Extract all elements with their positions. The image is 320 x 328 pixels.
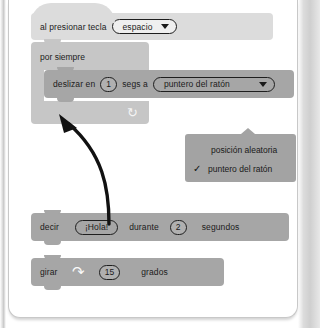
dropdown-glide-target-value: puntero del ratón — [164, 79, 230, 89]
script-panel: al presionar tecla espacio por siempre ↻… — [8, 0, 298, 318]
block-label-turn: girar — [40, 267, 58, 277]
block-bottom-notch — [44, 286, 61, 290]
curved-arrow-icon — [51, 108, 143, 226]
say-seconds-input[interactable]: 2 — [170, 220, 187, 235]
page-edge-left — [0, 0, 6, 328]
block-glide-to[interactable]: deslizar en 1 segs a puntero del ratón — [44, 70, 294, 98]
screenshot-root: al presionar tecla espacio por siempre ↻… — [0, 0, 320, 328]
loop-arrow-icon: ↻ — [125, 106, 139, 120]
page-edge-right — [298, 0, 320, 328]
block-label-for: durante — [129, 222, 159, 232]
turn-degrees-value: 15 — [105, 267, 115, 277]
turn-degrees-input[interactable]: 15 — [99, 265, 121, 280]
block-top-notch — [44, 39, 61, 43]
block-label-say: decir — [40, 222, 59, 232]
menu-item-label: puntero del ratón — [208, 164, 272, 174]
dropdown-glide-target[interactable]: puntero del ratón — [153, 77, 275, 92]
dropdown-key-selector[interactable]: espacio — [112, 19, 177, 34]
menu-item-random-position[interactable]: posición aleatoria — [211, 143, 277, 157]
block-label-glide: deslizar en — [53, 79, 95, 89]
dropdown-menu-pointer — [241, 128, 255, 134]
say-message-value: ¡Hola! — [85, 222, 108, 232]
block-turn-degrees[interactable]: girar ↷ 15 grados — [31, 258, 224, 286]
block-top-notch — [44, 255, 61, 259]
chevron-down-icon — [161, 24, 169, 29]
block-label-degrees: grados — [141, 267, 168, 277]
glide-seconds-value: 1 — [106, 79, 111, 89]
block-say-for-seconds[interactable]: decir ¡Hola! durante 2 segundos — [31, 213, 289, 241]
block-bottom-notch — [44, 241, 61, 245]
block-label-forever: por siempre — [40, 52, 85, 62]
block-label-seconds: segundos — [202, 222, 240, 232]
glide-seconds-input[interactable]: 1 — [100, 77, 117, 92]
block-label-glide-secs-to: segs a — [122, 79, 148, 89]
say-message-input[interactable]: ¡Hola! — [75, 220, 118, 235]
block-top-notch — [57, 67, 74, 71]
say-seconds-value: 2 — [176, 222, 181, 232]
dropdown-menu-glide-target[interactable]: posición aleatoria ✓ puntero del ratón — [185, 134, 296, 182]
block-when-key-pressed[interactable]: al presionar tecla espacio — [31, 13, 273, 40]
turn-clockwise-icon: ↷ — [63, 264, 94, 281]
block-label-when-key-pressed: al presionar tecla — [40, 22, 107, 32]
menu-item-label: posición aleatoria — [211, 145, 277, 155]
block-bottom-notch — [57, 98, 74, 102]
check-icon: ✓ — [193, 164, 203, 174]
menu-item-mouse-pointer[interactable]: ✓ puntero del ratón — [193, 162, 272, 176]
dropdown-key-value: espacio — [123, 22, 153, 32]
chevron-down-icon — [259, 82, 267, 87]
hat-block-dome — [31, 3, 115, 23]
block-top-notch — [44, 210, 61, 214]
